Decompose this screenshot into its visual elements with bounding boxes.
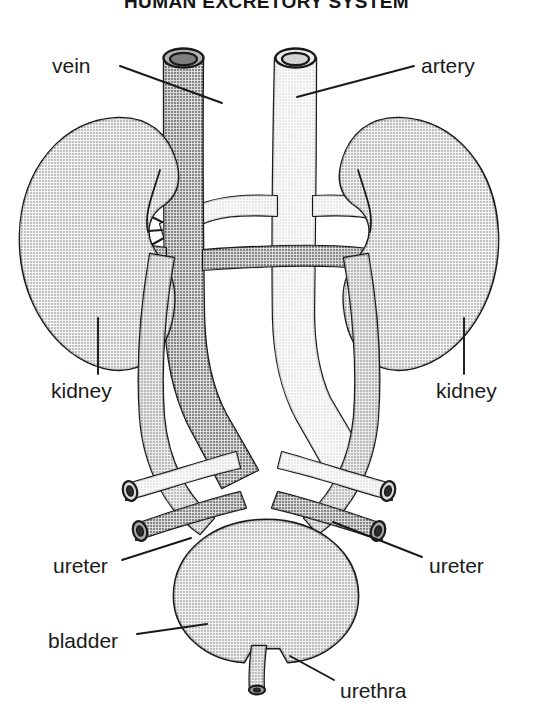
vein-trunk: [164, 58, 258, 488]
leader-urethra: [290, 656, 334, 680]
label-kidney-right: kidney: [436, 380, 497, 401]
label-bladder: bladder: [48, 630, 118, 651]
bladder-organ: [174, 520, 358, 662]
label-kidney-left: kidney: [51, 380, 112, 401]
vein-opening: [164, 49, 204, 68]
label-urethra: urethra: [340, 680, 407, 701]
label-ureter-right: ureter: [429, 555, 484, 576]
anatomy-illustration: [0, 0, 533, 715]
label-ureter-left: ureter: [53, 555, 108, 576]
artery-opening: [276, 49, 316, 68]
urethra-tube: [249, 646, 266, 694]
label-artery: artery: [421, 55, 475, 76]
label-vein: vein: [52, 55, 91, 76]
leader-ureter-left: [122, 538, 191, 560]
excretory-system-figure: HUMAN EXCRETORY SYSTEM: [0, 0, 533, 715]
